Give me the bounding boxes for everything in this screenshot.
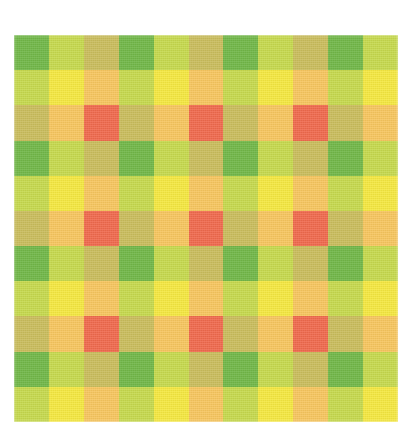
- plaid-cell: [154, 141, 189, 176]
- plaid-cell: [14, 105, 49, 140]
- plaid-cell: [119, 105, 154, 140]
- plaid-cell: [363, 281, 398, 316]
- plaid-cell: [49, 352, 84, 387]
- plaid-cell: [328, 35, 363, 70]
- plaid-cell: [119, 35, 154, 70]
- plaid-cell: [189, 35, 224, 70]
- plaid-cell: [328, 387, 363, 422]
- plaid-cell: [258, 70, 293, 105]
- plaid-cell: [363, 211, 398, 246]
- plaid-cell: [293, 316, 328, 351]
- plaid-cell: [258, 105, 293, 140]
- plaid-cell: [328, 211, 363, 246]
- plaid-cell: [49, 387, 84, 422]
- plaid-cell: [363, 246, 398, 281]
- plaid-cell: [49, 176, 84, 211]
- plaid-cell: [189, 387, 224, 422]
- plaid-cell: [363, 35, 398, 70]
- plaid-cell: [154, 281, 189, 316]
- plaid-cell: [293, 281, 328, 316]
- plaid-cell: [223, 176, 258, 211]
- plaid-cell: [293, 70, 328, 105]
- plaid-cell: [223, 70, 258, 105]
- plaid-cell: [49, 281, 84, 316]
- plaid-cell: [293, 387, 328, 422]
- plaid-cell: [258, 176, 293, 211]
- plaid-cell: [258, 35, 293, 70]
- plaid-cell: [49, 246, 84, 281]
- plaid-cell: [293, 211, 328, 246]
- plaid-cell: [154, 176, 189, 211]
- plaid-cell: [258, 211, 293, 246]
- plaid-cell: [328, 352, 363, 387]
- plaid-cell: [223, 387, 258, 422]
- plaid-cell: [154, 211, 189, 246]
- plaid-cell: [84, 105, 119, 140]
- plaid-cell: [84, 176, 119, 211]
- gingham-fabric-swatch: [14, 35, 398, 422]
- plaid-cell: [14, 141, 49, 176]
- plaid-cell: [84, 387, 119, 422]
- plaid-cell: [258, 246, 293, 281]
- plaid-cell: [119, 316, 154, 351]
- plaid-cell: [154, 316, 189, 351]
- plaid-cell: [119, 211, 154, 246]
- plaid-cell: [258, 281, 293, 316]
- plaid-cell: [14, 70, 49, 105]
- plaid-cell: [293, 141, 328, 176]
- plaid-cell: [293, 246, 328, 281]
- plaid-cell: [258, 316, 293, 351]
- plaid-cell: [189, 176, 224, 211]
- plaid-cell: [84, 316, 119, 351]
- plaid-cell: [189, 141, 224, 176]
- plaid-cell: [189, 105, 224, 140]
- plaid-cell: [14, 281, 49, 316]
- plaid-cell: [49, 141, 84, 176]
- plaid-cell: [49, 211, 84, 246]
- plaid-cell: [84, 35, 119, 70]
- plaid-cell: [363, 387, 398, 422]
- plaid-cell: [363, 141, 398, 176]
- image-canvas: [0, 0, 416, 431]
- plaid-cell: [223, 141, 258, 176]
- plaid-cell: [84, 281, 119, 316]
- plaid-cell: [223, 105, 258, 140]
- plaid-cell: [223, 281, 258, 316]
- plaid-cell: [328, 316, 363, 351]
- plaid-cell: [14, 316, 49, 351]
- plaid-cell: [14, 35, 49, 70]
- plaid-cell: [328, 70, 363, 105]
- plaid-cell: [363, 176, 398, 211]
- plaid-cell: [223, 35, 258, 70]
- plaid-cell: [14, 246, 49, 281]
- plaid-cell: [258, 352, 293, 387]
- plaid-cell: [154, 70, 189, 105]
- plaid-cell: [293, 352, 328, 387]
- plaid-cell: [119, 387, 154, 422]
- plaid-cell: [84, 352, 119, 387]
- plaid-cell: [84, 211, 119, 246]
- plaid-cell: [119, 352, 154, 387]
- plaid-cell: [363, 352, 398, 387]
- plaid-cell: [189, 211, 224, 246]
- plaid-cell: [154, 352, 189, 387]
- plaid-cell: [154, 246, 189, 281]
- plaid-cell: [363, 105, 398, 140]
- plaid-cell: [154, 35, 189, 70]
- plaid-cell: [189, 281, 224, 316]
- plaid-cell: [189, 246, 224, 281]
- plaid-cell: [328, 246, 363, 281]
- plaid-cell: [119, 176, 154, 211]
- plaid-cell: [293, 105, 328, 140]
- plaid-cell: [154, 387, 189, 422]
- plaid-cell: [14, 211, 49, 246]
- plaid-cell: [223, 211, 258, 246]
- plaid-cell: [49, 70, 84, 105]
- plaid-cell: [14, 387, 49, 422]
- plaid-cell: [119, 281, 154, 316]
- plaid-cell: [328, 281, 363, 316]
- plaid-cell: [223, 352, 258, 387]
- plaid-cell: [189, 316, 224, 351]
- plaid-cell: [49, 35, 84, 70]
- plaid-cell: [49, 105, 84, 140]
